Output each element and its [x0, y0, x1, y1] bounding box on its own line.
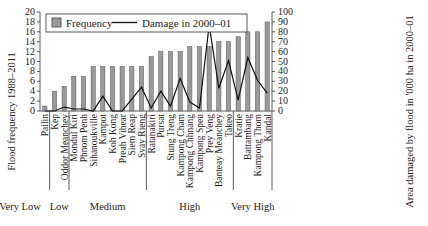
frequency-bar — [52, 91, 56, 111]
x-axis-labels: PailinKepOddor MeancheyMondul KiriPhnom … — [40, 113, 272, 188]
frequency-bar — [246, 32, 250, 111]
frequency-bar — [255, 32, 259, 111]
right-tick-label: 30 — [278, 75, 288, 86]
right-axis-title: Area damaged by flood in '000 ha in 2000… — [404, 15, 415, 208]
frequency-bar — [101, 66, 105, 111]
frequency-bar — [149, 57, 153, 111]
frequency-bar — [72, 76, 76, 111]
left-tick-label: 0 — [30, 105, 35, 116]
category-label: Takeo — [224, 114, 234, 137]
category-label: Kampot — [98, 114, 108, 145]
frequency-bars — [43, 22, 270, 111]
left-tick-label: 8 — [30, 65, 35, 76]
right-tick-label: 10 — [278, 95, 288, 106]
frequency-bar — [265, 22, 269, 111]
frequency-bar — [159, 52, 163, 111]
category-label: Kampong Thom — [253, 113, 263, 176]
right-tick-label: 40 — [278, 65, 288, 76]
group-label: High — [179, 201, 201, 212]
category-label: Koh Kong — [108, 114, 118, 154]
damage-line — [45, 25, 267, 111]
flood-chart: 024681012141618200102030405060708090100F… — [0, 0, 428, 226]
left-tick-label: 12 — [25, 46, 35, 57]
category-label: Stung Treng — [166, 114, 176, 161]
frequency-bar — [110, 66, 114, 111]
left-tick-label: 18 — [25, 16, 35, 27]
legend-frequency-swatch — [52, 18, 61, 27]
category-label: Svay Rieng — [137, 114, 147, 158]
category-label: Preah Vihear — [118, 113, 128, 163]
category-label: Oddor Meanchey — [60, 114, 70, 180]
frequency-bar — [91, 66, 95, 111]
frequency-bar — [81, 76, 85, 111]
category-label: Pursat — [156, 114, 166, 138]
left-tick-label: 2 — [30, 95, 35, 106]
category-label: Siem Reap — [127, 114, 137, 156]
category-label: Phnom Penh — [79, 114, 89, 163]
left-tick-label: 16 — [25, 26, 35, 37]
left-tick-label: 4 — [30, 85, 35, 96]
right-tick-label: 0 — [278, 105, 283, 116]
group-label: Low — [50, 201, 70, 212]
left-tick-label: 20 — [25, 6, 35, 17]
category-label: Pailin — [40, 114, 50, 136]
right-tick-label: 90 — [278, 16, 288, 27]
right-tick-label: 60 — [278, 46, 288, 57]
category-label: Kampong Cham — [176, 113, 186, 176]
frequency-bar — [43, 106, 47, 111]
left-tick-label: 10 — [25, 56, 35, 67]
category-label: Sihanoukville — [89, 114, 99, 167]
group-label: Very Low — [0, 201, 41, 212]
left-tick-label: 6 — [30, 75, 35, 86]
category-label: Kampong Speu — [195, 114, 205, 173]
legend: Frequency Damage in 2000–01 — [46, 14, 247, 32]
left-axis-title: Flood frequency 1988–2011 — [6, 52, 17, 171]
category-label: Prey Veng — [205, 114, 215, 153]
category-label: Mondul Kiri — [69, 114, 79, 162]
damage-polyline — [45, 25, 267, 111]
category-label: Banteay Meanchey — [214, 114, 224, 187]
frequency-bar — [130, 66, 134, 111]
category-label: Kratie — [234, 114, 244, 138]
right-tick-label: 50 — [278, 56, 288, 67]
right-tick-label: 80 — [278, 26, 288, 37]
frequency-bar — [120, 66, 124, 111]
group-label: Medium — [90, 201, 126, 212]
category-label: Kampong Chhnang — [185, 114, 195, 188]
category-label: Kep — [50, 114, 60, 130]
category-label: Kandal — [263, 114, 273, 142]
legend-frequency-label: Frequency — [66, 17, 113, 29]
frequency-bar — [197, 47, 201, 111]
legend-damage-label: Damage in 2000–01 — [142, 17, 231, 29]
category-label: Battambang — [243, 114, 253, 160]
frequency-bar — [226, 42, 230, 111]
right-tick-label: 70 — [278, 36, 288, 47]
left-tick-label: 14 — [25, 36, 35, 47]
right-tick-label: 20 — [278, 85, 288, 96]
category-label: Ratanakiri — [147, 114, 157, 154]
group-label: Very High — [231, 201, 275, 212]
frequency-bar — [207, 47, 211, 111]
right-tick-label: 100 — [278, 6, 293, 17]
